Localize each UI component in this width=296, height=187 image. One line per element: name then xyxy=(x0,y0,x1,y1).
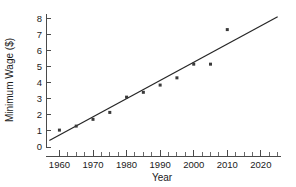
y-tick-label: 8 xyxy=(37,13,42,24)
data-point-marker xyxy=(75,125,78,128)
y-tick-label: 2 xyxy=(37,109,42,120)
data-point-marker xyxy=(58,129,61,132)
y-tick-label: 5 xyxy=(37,61,42,72)
data-point-marker xyxy=(108,111,111,114)
trend-line-segment xyxy=(49,17,277,141)
data-point-marker xyxy=(159,84,162,87)
trend-line xyxy=(49,17,277,141)
x-tick-label: 1960 xyxy=(49,159,70,170)
data-point-marker xyxy=(125,96,128,99)
data-point-marker xyxy=(142,91,145,94)
x-axis-title: Year xyxy=(152,172,173,183)
scatter-plot-figure: 012345678 1960197019801990200020102020 M… xyxy=(0,0,296,187)
plot-canvas: 012345678 1960197019801990200020102020 M… xyxy=(0,0,296,187)
data-point-marker xyxy=(192,63,195,66)
x-tick-label: 2010 xyxy=(217,159,238,170)
y-tick-label: 4 xyxy=(37,77,42,88)
y-tick-label: 7 xyxy=(37,29,42,40)
data-point-marker xyxy=(209,63,212,66)
y-axis-title: Minimum Wage ($) xyxy=(4,38,15,122)
data-point-marker xyxy=(175,76,178,79)
x-tick-label: 1990 xyxy=(150,159,171,170)
y-tick-label: 6 xyxy=(37,45,42,56)
x-tick-label: 1970 xyxy=(82,159,103,170)
data-points xyxy=(58,28,229,132)
x-tick-label: 2000 xyxy=(183,159,204,170)
data-point-marker xyxy=(226,28,229,31)
y-tick-label: 3 xyxy=(37,93,42,104)
x-tick-label: 1980 xyxy=(116,159,137,170)
y-tick-label: 1 xyxy=(37,125,42,136)
x-axis: 1960197019801990200020102020 xyxy=(46,150,281,170)
x-tick-label: 2020 xyxy=(250,159,271,170)
y-tick-label: 0 xyxy=(37,141,42,152)
data-point-marker xyxy=(92,118,95,121)
y-axis: 012345678 xyxy=(37,13,51,153)
